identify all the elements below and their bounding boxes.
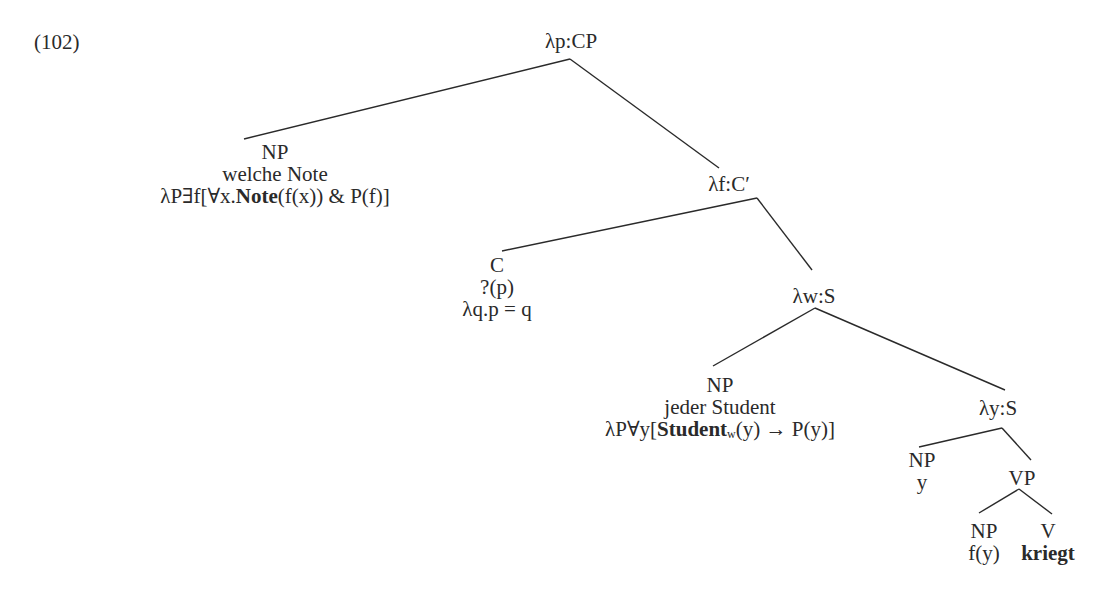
label-text: VP — [1009, 466, 1036, 490]
node-cbar: λf:C′ — [708, 173, 750, 195]
node-label-line: λw:S — [793, 285, 836, 307]
label-text: λp:CP — [545, 29, 597, 53]
node-label-line: y — [909, 471, 936, 493]
node-label-line: f(y) — [968, 542, 999, 564]
node-label-line: λp:CP — [545, 30, 597, 52]
label-text: jeder Student — [664, 395, 775, 419]
node-label-line: NP — [968, 520, 999, 542]
node-label-line: λP∀y[Studentw(y) → P(y)] — [605, 418, 835, 440]
node-label-line: λf:C′ — [708, 173, 750, 195]
bold-term: kriegt — [1021, 541, 1075, 565]
node-np-y: NPy — [909, 449, 936, 493]
label-text: y — [917, 470, 928, 494]
label-text: λy:S — [979, 396, 1017, 420]
label-text: NP — [262, 140, 289, 164]
node-label-line: NP — [160, 141, 390, 163]
subscript: w — [727, 427, 736, 441]
label-text: λP∃f[∀x. — [160, 184, 236, 208]
node-np-jeder-student: NPjeder StudentλP∀y[Studentw(y) → P(y)] — [605, 374, 835, 440]
node-label-line: NP — [605, 374, 835, 396]
node-label-line: ?(p) — [462, 276, 531, 298]
label-text: welche Note — [222, 162, 328, 186]
label-text: λw:S — [793, 284, 836, 308]
tree-branches — [0, 0, 1115, 590]
node-label-line: V — [1021, 520, 1075, 542]
node-vp: VP — [1009, 467, 1036, 489]
node-np-welche-note: NPwelche NoteλP∃f[∀x.Note(f(x)) & P(f)] — [160, 141, 390, 207]
label-text: V — [1040, 519, 1055, 543]
branch-s-y-to-np-y — [919, 428, 1002, 447]
node-c: C?(p)λq.p = q — [462, 254, 531, 320]
node-label-line: λy:S — [979, 397, 1017, 419]
node-label-line: NP — [909, 449, 936, 471]
node-label-line: welche Note — [160, 163, 390, 185]
label-text: (y) → P(y)] — [736, 417, 835, 441]
node-label-line: λq.p = q — [462, 298, 531, 320]
branch-cbar-to-s-w — [757, 198, 812, 270]
branch-vp-to-v-kriegt — [1019, 489, 1052, 514]
branch-vp-to-np-fy — [979, 489, 1019, 513]
label-text: λf:C′ — [708, 172, 750, 196]
label-text: NP — [909, 448, 936, 472]
node-root: λp:CP — [545, 30, 597, 52]
node-s-y: λy:S — [979, 397, 1017, 419]
branch-s-w-to-np-jeder-student — [713, 308, 815, 366]
branch-root-to-cbar — [570, 59, 719, 168]
label-text: ?(p) — [480, 275, 514, 299]
label-text: NP — [971, 519, 998, 543]
bold-term: Note — [236, 184, 278, 208]
node-s-w: λw:S — [793, 285, 836, 307]
node-label-line: λP∃f[∀x.Note(f(x)) & P(f)] — [160, 185, 390, 207]
node-label-line: jeder Student — [605, 396, 835, 418]
branch-s-y-to-vp — [1002, 428, 1031, 460]
branch-cbar-to-c — [502, 198, 757, 251]
example-number: (102) — [34, 30, 80, 54]
label-text: NP — [707, 373, 734, 397]
label-text: λq.p = q — [462, 297, 531, 321]
label-text: f(y) — [968, 541, 999, 565]
node-v-kriegt: Vkriegt — [1021, 520, 1075, 564]
node-label-line: kriegt — [1021, 542, 1075, 564]
branch-s-w-to-s-y — [815, 308, 1005, 390]
node-np-fy: NPf(y) — [968, 520, 999, 564]
bold-term: Student — [657, 417, 727, 441]
label-text: (f(x)) & P(f)] — [278, 184, 390, 208]
branch-root-to-np-welche-note — [244, 59, 570, 139]
node-label-line: C — [462, 254, 531, 276]
label-text: C — [490, 253, 504, 277]
node-label-line: VP — [1009, 467, 1036, 489]
label-text: λP∀y[ — [605, 417, 657, 441]
